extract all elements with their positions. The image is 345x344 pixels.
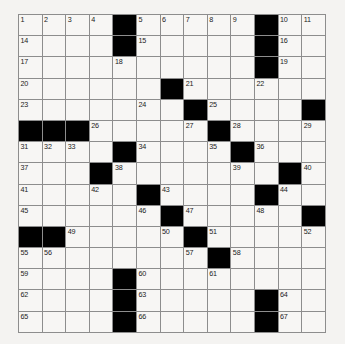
crossword-cell[interactable]: 64 — [278, 290, 302, 311]
crossword-cell[interactable]: 52 — [302, 226, 326, 247]
crossword-cell[interactable]: 25 — [207, 99, 231, 120]
crossword-cell[interactable] — [66, 290, 90, 311]
crossword-cell[interactable] — [66, 78, 90, 99]
crossword-cell[interactable] — [184, 163, 208, 184]
crossword-cell[interactable] — [184, 184, 208, 205]
crossword-cell[interactable] — [113, 78, 137, 99]
crossword-cell[interactable] — [66, 248, 90, 269]
crossword-cell[interactable] — [302, 184, 326, 205]
crossword-cell[interactable]: 34 — [136, 142, 160, 163]
crossword-cell[interactable] — [231, 205, 255, 226]
crossword-cell[interactable] — [278, 226, 302, 247]
crossword-cell[interactable] — [207, 311, 231, 332]
crossword-cell[interactable] — [160, 57, 184, 78]
crossword-cell[interactable] — [160, 269, 184, 290]
crossword-cell[interactable]: 17 — [19, 57, 43, 78]
crossword-cell[interactable]: 14 — [19, 36, 43, 57]
crossword-cell[interactable] — [278, 205, 302, 226]
crossword-cell[interactable] — [89, 248, 113, 269]
crossword-cell[interactable]: 27 — [184, 120, 208, 141]
crossword-cell[interactable] — [160, 248, 184, 269]
crossword-cell[interactable] — [207, 36, 231, 57]
crossword-cell[interactable]: 2 — [42, 15, 66, 36]
crossword-cell[interactable] — [278, 269, 302, 290]
crossword-cell[interactable] — [89, 57, 113, 78]
crossword-cell[interactable]: 56 — [42, 248, 66, 269]
crossword-cell[interactable] — [42, 290, 66, 311]
crossword-cell[interactable]: 29 — [302, 120, 326, 141]
crossword-cell[interactable] — [42, 78, 66, 99]
crossword-cell[interactable] — [231, 36, 255, 57]
crossword-cell[interactable] — [42, 184, 66, 205]
crossword-cell[interactable]: 49 — [66, 226, 90, 247]
crossword-cell[interactable]: 50 — [160, 226, 184, 247]
crossword-cell[interactable] — [42, 57, 66, 78]
crossword-cell[interactable] — [89, 311, 113, 332]
crossword-cell[interactable]: 40 — [302, 163, 326, 184]
crossword-cell[interactable]: 36 — [254, 142, 278, 163]
crossword-cell[interactable] — [89, 78, 113, 99]
crossword-cell[interactable]: 1 — [19, 15, 43, 36]
crossword-grid[interactable]: 1234567891011141516171819202122232425262… — [18, 14, 326, 333]
crossword-cell[interactable]: 48 — [254, 205, 278, 226]
crossword-cell[interactable] — [207, 205, 231, 226]
crossword-cell[interactable] — [89, 99, 113, 120]
crossword-cell[interactable] — [113, 226, 137, 247]
crossword-cell[interactable]: 15 — [136, 36, 160, 57]
crossword-cell[interactable] — [184, 36, 208, 57]
crossword-cell[interactable]: 46 — [136, 205, 160, 226]
crossword-cell[interactable]: 60 — [136, 269, 160, 290]
crossword-cell[interactable]: 8 — [207, 15, 231, 36]
crossword-cell[interactable] — [278, 142, 302, 163]
crossword-cell[interactable] — [254, 99, 278, 120]
crossword-cell[interactable] — [254, 163, 278, 184]
crossword-cell[interactable] — [160, 163, 184, 184]
crossword-cell[interactable] — [42, 311, 66, 332]
crossword-cell[interactable] — [160, 142, 184, 163]
crossword-cell[interactable] — [160, 99, 184, 120]
crossword-cell[interactable]: 57 — [184, 248, 208, 269]
crossword-cell[interactable]: 18 — [113, 57, 137, 78]
crossword-cell[interactable] — [66, 163, 90, 184]
crossword-cell[interactable]: 47 — [184, 205, 208, 226]
crossword-cell[interactable] — [42, 163, 66, 184]
crossword-cell[interactable] — [278, 78, 302, 99]
crossword-cell[interactable] — [184, 142, 208, 163]
crossword-cell[interactable] — [278, 99, 302, 120]
crossword-cell[interactable]: 31 — [19, 142, 43, 163]
crossword-cell[interactable] — [113, 99, 137, 120]
crossword-cell[interactable] — [89, 269, 113, 290]
crossword-cell[interactable]: 55 — [19, 248, 43, 269]
crossword-cell[interactable]: 5 — [136, 15, 160, 36]
crossword-cell[interactable] — [302, 78, 326, 99]
crossword-cell[interactable] — [136, 120, 160, 141]
crossword-cell[interactable] — [302, 36, 326, 57]
crossword-cell[interactable]: 65 — [19, 311, 43, 332]
crossword-cell[interactable]: 58 — [231, 248, 255, 269]
crossword-cell[interactable] — [231, 184, 255, 205]
crossword-cell[interactable] — [160, 311, 184, 332]
crossword-cell[interactable] — [207, 57, 231, 78]
crossword-cell[interactable] — [278, 120, 302, 141]
crossword-cell[interactable] — [89, 226, 113, 247]
crossword-cell[interactable] — [231, 290, 255, 311]
crossword-cell[interactable] — [231, 269, 255, 290]
crossword-cell[interactable] — [89, 205, 113, 226]
crossword-cell[interactable]: 35 — [207, 142, 231, 163]
crossword-cell[interactable] — [113, 184, 137, 205]
crossword-cell[interactable]: 62 — [19, 290, 43, 311]
crossword-cell[interactable]: 33 — [66, 142, 90, 163]
crossword-cell[interactable]: 22 — [254, 78, 278, 99]
crossword-cell[interactable] — [302, 290, 326, 311]
crossword-cell[interactable] — [113, 205, 137, 226]
crossword-cell[interactable]: 67 — [278, 311, 302, 332]
crossword-cell[interactable] — [302, 269, 326, 290]
crossword-cell[interactable] — [136, 226, 160, 247]
crossword-cell[interactable] — [42, 269, 66, 290]
crossword-cell[interactable] — [66, 184, 90, 205]
crossword-cell[interactable]: 19 — [278, 57, 302, 78]
crossword-cell[interactable] — [207, 163, 231, 184]
crossword-cell[interactable]: 63 — [136, 290, 160, 311]
crossword-cell[interactable] — [254, 226, 278, 247]
crossword-cell[interactable]: 37 — [19, 163, 43, 184]
